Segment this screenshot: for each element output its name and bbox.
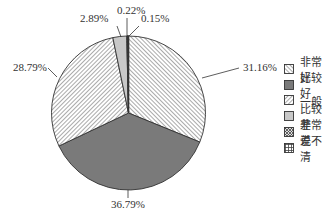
legend-label: 说不清 — [300, 132, 331, 164]
leader-line-3 — [117, 26, 121, 37]
pie-slice-5 — [128, 36, 129, 113]
leader-line-5 — [129, 26, 139, 36]
legend-item-5: 说不清 — [284, 140, 331, 156]
chart-legend: 非常好比较好一般比较差非常差说不清 — [284, 61, 331, 156]
legend-swatch-icon — [284, 143, 294, 153]
leader-line-2 — [48, 68, 57, 77]
slice-label-1: 36.79% — [111, 198, 145, 210]
slice-label-2: 28.79% — [13, 61, 47, 73]
legend-swatch-icon — [284, 127, 294, 137]
leader-line-0 — [202, 68, 239, 78]
legend-swatch-icon — [284, 95, 294, 105]
legend-item-1: 比较好 — [284, 77, 331, 93]
slice-label-5: 0.15% — [141, 12, 169, 24]
legend-swatch-icon — [284, 80, 294, 90]
legend-swatch-icon — [284, 111, 294, 121]
pie-chart: 31.16%36.79%28.79%2.89%0.22%0.15% — [0, 0, 331, 219]
legend-swatch-icon — [284, 64, 294, 74]
pie-slices — [51, 36, 205, 190]
slice-label-3: 2.89% — [80, 12, 108, 24]
slice-label-0: 31.16% — [243, 61, 277, 73]
